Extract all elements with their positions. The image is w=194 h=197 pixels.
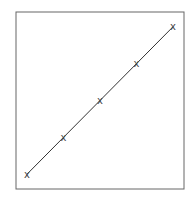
- x-marker-icon: x: [24, 169, 30, 180]
- x-marker-icon: x: [61, 132, 67, 143]
- x-marker-icon: x: [170, 21, 176, 32]
- series-line: xxxxx: [24, 21, 176, 180]
- x-marker-icon: x: [134, 58, 140, 69]
- line-chart: xxxxx: [0, 0, 194, 197]
- x-marker-icon: x: [97, 95, 103, 106]
